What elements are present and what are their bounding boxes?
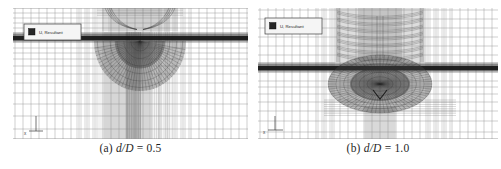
axis-triad-a: x [24,116,43,136]
mesh-panel-a: x U, Resultant [13,8,248,139]
mesh-graphic-b: x U, Resultant [258,8,498,139]
mesh-graphic-a: x U, Resultant [13,8,248,139]
axis-label-a: x [24,131,27,136]
caption-a-index: (a) [99,142,115,154]
legend-a: U, Resultant [24,24,81,40]
caption-b-value: = 1.0 [382,142,410,154]
caption-b: (b) d/D = 1.0 [258,142,498,154]
axis-label-b: x [263,130,266,135]
legend-b: U, Resultant [265,18,322,34]
caption-b-variable: d/D [364,142,382,154]
caption-a-value: = 0.5 [134,142,162,154]
caption-a-variable: d/D [116,142,134,154]
legend-label-a: U, Resultant [39,30,63,35]
legend-swatch-icon [270,23,277,30]
legend-swatch-icon [29,29,36,36]
legend-label-b: U, Resultant [280,24,304,29]
caption-a: (a) d/D = 0.5 [13,142,248,154]
figure-two-mesh-panels: x U, Resultant x U, Resultant (a [0,0,501,169]
caption-b-index: (b) [347,142,364,154]
mesh-panel-b: x U, Resultant [258,8,498,139]
